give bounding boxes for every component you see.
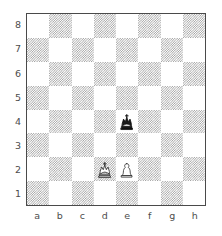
square-a1[interactable] — [27, 181, 49, 205]
rank-label-8: 8 — [5, 13, 23, 37]
square-b7[interactable] — [49, 38, 71, 62]
square-c1[interactable] — [72, 181, 94, 205]
square-b5[interactable] — [49, 86, 71, 110]
rank-label-6: 6 — [5, 61, 23, 85]
rank-label-4: 4 — [5, 110, 23, 134]
square-g5[interactable] — [161, 86, 183, 110]
square-h6[interactable] — [183, 62, 205, 86]
square-h4[interactable] — [183, 110, 205, 134]
square-a7[interactable] — [27, 38, 49, 62]
rank-label-5: 5 — [5, 85, 23, 109]
square-c2[interactable] — [72, 157, 94, 181]
square-c4[interactable] — [72, 110, 94, 134]
file-label-a: a — [26, 208, 49, 224]
square-d5[interactable] — [94, 86, 116, 110]
square-e7[interactable] — [116, 38, 138, 62]
square-b8[interactable] — [49, 14, 71, 38]
square-g2[interactable] — [161, 157, 183, 181]
square-f2[interactable] — [138, 157, 160, 181]
square-d7[interactable] — [94, 38, 116, 62]
black-king-on-e4[interactable] — [116, 110, 138, 134]
square-f1[interactable] — [138, 181, 160, 205]
square-f4[interactable] — [138, 110, 160, 134]
square-h3[interactable] — [183, 133, 205, 157]
square-d6[interactable] — [94, 62, 116, 86]
square-e8[interactable] — [116, 14, 138, 38]
square-b3[interactable] — [49, 133, 71, 157]
square-h1[interactable] — [183, 181, 205, 205]
square-a5[interactable] — [27, 86, 49, 110]
file-label-g: g — [161, 208, 184, 224]
rank-labels: 8 7 6 5 4 3 2 1 — [5, 13, 23, 206]
square-f6[interactable] — [138, 62, 160, 86]
white-king-on-d2[interactable] — [94, 157, 116, 181]
square-a8[interactable] — [27, 14, 49, 38]
square-e5[interactable] — [116, 86, 138, 110]
square-a3[interactable] — [27, 133, 49, 157]
square-f8[interactable] — [138, 14, 160, 38]
rank-label-7: 7 — [5, 37, 23, 61]
file-label-b: b — [49, 208, 72, 224]
file-label-d: d — [94, 208, 117, 224]
white-pawn-on-e2[interactable] — [116, 157, 138, 181]
square-h7[interactable] — [183, 38, 205, 62]
square-e6[interactable] — [116, 62, 138, 86]
square-d4[interactable] — [94, 110, 116, 134]
square-g6[interactable] — [161, 62, 183, 86]
square-f7[interactable] — [138, 38, 160, 62]
square-c6[interactable] — [72, 62, 94, 86]
square-d3[interactable] — [94, 133, 116, 157]
square-b6[interactable] — [49, 62, 71, 86]
square-e1[interactable] — [116, 181, 138, 205]
square-g3[interactable] — [161, 133, 183, 157]
square-h2[interactable] — [183, 157, 205, 181]
file-label-c: c — [71, 208, 94, 224]
square-h8[interactable] — [183, 14, 205, 38]
file-label-h: h — [184, 208, 207, 224]
square-e3[interactable] — [116, 133, 138, 157]
file-labels: a b c d e f g h — [26, 208, 206, 224]
square-a4[interactable] — [27, 110, 49, 134]
square-g7[interactable] — [161, 38, 183, 62]
square-c8[interactable] — [72, 14, 94, 38]
square-d8[interactable] — [94, 14, 116, 38]
rank-label-3: 3 — [5, 134, 23, 158]
rank-label-1: 1 — [5, 182, 23, 206]
rank-label-2: 2 — [5, 158, 23, 182]
square-d1[interactable] — [94, 181, 116, 205]
square-f5[interactable] — [138, 86, 160, 110]
square-h5[interactable] — [183, 86, 205, 110]
square-b2[interactable] — [49, 157, 71, 181]
chess-diagram: 8 7 6 5 4 3 2 1 — [0, 0, 222, 236]
square-c7[interactable] — [72, 38, 94, 62]
square-c3[interactable] — [72, 133, 94, 157]
square-a6[interactable] — [27, 62, 49, 86]
square-b4[interactable] — [49, 110, 71, 134]
square-f3[interactable] — [138, 133, 160, 157]
square-g1[interactable] — [161, 181, 183, 205]
file-label-e: e — [116, 208, 139, 224]
file-label-f: f — [139, 208, 162, 224]
square-b1[interactable] — [49, 181, 71, 205]
square-a2[interactable] — [27, 157, 49, 181]
chess-board[interactable] — [26, 13, 206, 206]
square-g8[interactable] — [161, 14, 183, 38]
square-c5[interactable] — [72, 86, 94, 110]
square-g4[interactable] — [161, 110, 183, 134]
